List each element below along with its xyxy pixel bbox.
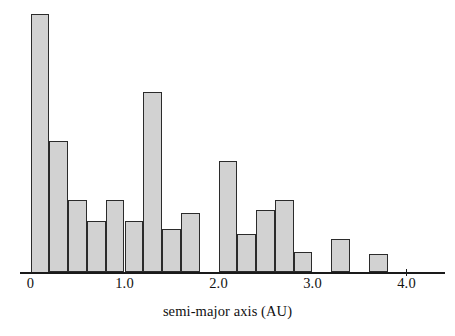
x-axis-tick-label: 1.0 (115, 276, 134, 290)
histogram-bar (331, 239, 350, 273)
histogram-bar (275, 200, 294, 272)
x-axis-tick-label: 2.0 (209, 276, 228, 290)
histogram-figure: 01.02.03.04.0 semi-major axis (AU) (0, 0, 455, 336)
histogram-bar (106, 200, 125, 272)
histogram-bar (256, 210, 275, 272)
x-axis-line (20, 272, 445, 274)
histogram-bar (49, 141, 68, 273)
bars-group (0, 0, 455, 290)
histogram-bar (181, 213, 200, 272)
histogram-bar (162, 229, 181, 273)
plot-area: 01.02.03.04.0 (0, 0, 455, 290)
histogram-bar (294, 252, 313, 273)
histogram-bar (219, 161, 238, 272)
histogram-bar (125, 221, 144, 273)
histogram-bar (237, 234, 256, 273)
x-axis-tick-label: 4.0 (397, 276, 416, 290)
x-axis-tick-label: 0 (27, 276, 34, 290)
x-axis-tick-label: 3.0 (303, 276, 322, 290)
histogram-bar (68, 200, 87, 272)
histogram-bar (31, 14, 50, 273)
histogram-bar (87, 221, 106, 273)
histogram-bar (143, 92, 162, 273)
x-axis-label: semi-major axis (AU) (0, 303, 455, 320)
histogram-bar (369, 254, 388, 272)
